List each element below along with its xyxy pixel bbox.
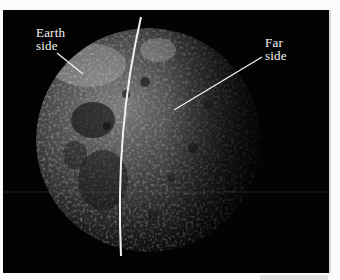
page-edge-mark <box>260 275 328 280</box>
earth-side-label-line2: side <box>36 39 65 52</box>
moon-surface <box>33 25 273 260</box>
far-side-label: Far side <box>265 36 287 62</box>
photo-border <box>329 10 331 273</box>
far-side-label-line2: side <box>265 49 287 62</box>
earth-side-label: Earth side <box>36 26 65 52</box>
